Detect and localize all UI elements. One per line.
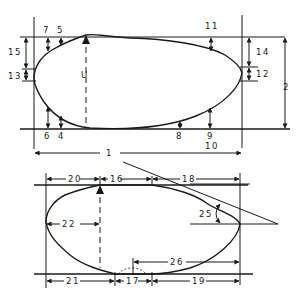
label-2: 2	[283, 82, 290, 92]
label-8: 8	[176, 131, 183, 141]
label-7: 7	[43, 25, 50, 35]
label-5: 5	[57, 25, 64, 35]
label-16: 16	[110, 174, 124, 184]
label-20: 20	[68, 174, 82, 184]
label-u: U	[81, 70, 89, 80]
label-4: 4	[58, 131, 65, 141]
label-25: 25	[199, 209, 213, 219]
label-21: 21	[66, 276, 80, 286]
label-6: 6	[44, 131, 51, 141]
label-17: 17	[126, 276, 140, 286]
dimension-diagram: 7 5 15 13 U 6 4 11 14 12 2 8 9 10 1	[0, 0, 304, 296]
label-14: 14	[256, 47, 270, 57]
label-18: 18	[182, 174, 196, 184]
label-1: 1	[106, 148, 113, 158]
label-12: 12	[256, 69, 270, 79]
label-19: 19	[192, 276, 206, 286]
label-15: 15	[8, 47, 22, 57]
label-10: 10	[205, 141, 219, 151]
label-22: 22	[62, 219, 76, 229]
label-13: 13	[8, 71, 22, 81]
bottom-profile-outline	[46, 185, 240, 274]
label-9: 9	[207, 131, 214, 141]
label-26: 26	[170, 257, 184, 267]
label-11: 11	[205, 21, 219, 31]
top-profile: 7 5 15 13 U 6 4 11 14 12 2 8 9 10 1	[8, 15, 290, 158]
bottom-profile: 20 16 18 22 25 26 21 17 19	[34, 162, 278, 288]
